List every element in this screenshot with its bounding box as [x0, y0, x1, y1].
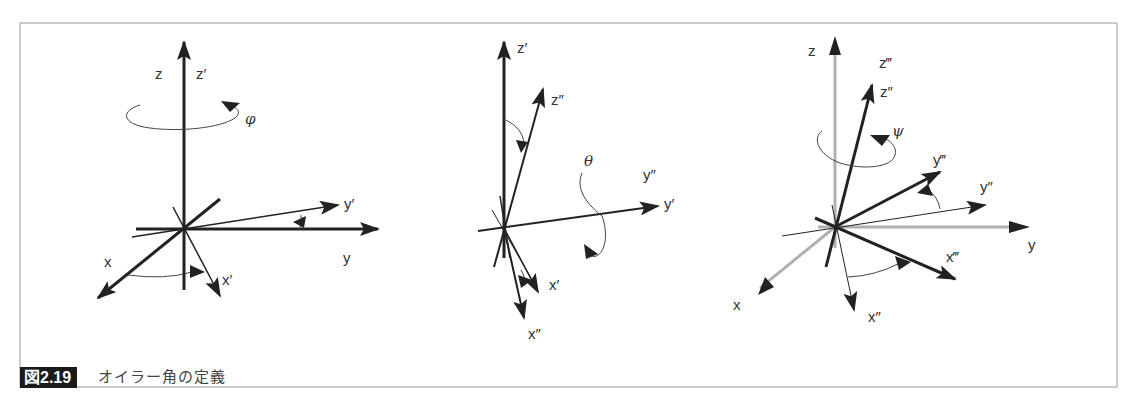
y-angle-arrowhead-icon — [917, 184, 933, 196]
y-tprime-axis — [835, 172, 940, 227]
label-z-dprime: z″ — [551, 91, 565, 108]
x-axis — [760, 227, 835, 288]
diagram-theta: z′ z″ θ y″ y′ x′ x″ — [478, 39, 675, 342]
theta-arrowhead-icon — [584, 244, 598, 259]
label-y-dprime: y″ — [980, 178, 994, 195]
label-x-dprime: x″ — [868, 308, 882, 325]
label-y-tprime: y‴ — [933, 151, 947, 168]
label-z-prime: z′ — [196, 65, 207, 82]
label-x: x — [104, 253, 112, 270]
label-theta: θ — [584, 152, 593, 170]
x-axis — [98, 199, 220, 298]
label-phi: φ — [245, 110, 256, 128]
label-x: x — [733, 296, 741, 313]
psi-arrowhead-icon — [870, 135, 890, 146]
x-dprime-axis — [504, 228, 524, 318]
diagram-psi: z z‴ z″ ψ y‴ y″ y x‴ x x″ — [733, 36, 1036, 325]
y-dprime-axis — [782, 205, 985, 236]
label-y-prime: y′ — [344, 195, 355, 212]
label-psi: ψ — [892, 122, 904, 140]
figure-number-badge: 図2.19 — [20, 367, 77, 388]
label-z: z — [808, 42, 816, 59]
label-y-dprime: y″ — [643, 166, 657, 183]
y-prime-axis — [132, 205, 338, 237]
x-dprime-axis — [832, 205, 854, 310]
label-x-dprime: x″ — [528, 325, 542, 342]
y-angle-arrowhead-icon — [293, 216, 306, 228]
label-x-prime: x′ — [222, 271, 233, 288]
label-z: z — [155, 65, 163, 82]
label-x-tprime: x‴ — [946, 248, 960, 265]
z-dprime-axis — [494, 89, 543, 267]
label-y: y — [343, 249, 351, 266]
label-y: y — [1028, 236, 1036, 253]
x-angle-arrowhead-icon — [190, 265, 205, 278]
label-z-dprime: z″ — [880, 83, 894, 100]
label-x-prime: x′ — [549, 276, 560, 293]
diagram-phi: z z′ φ y′ y x x′ — [98, 42, 378, 298]
euler-angles-figure: z z′ φ y′ y x x′ z′ z″ θ y″ y′ — [0, 0, 1121, 406]
label-z-tprime: z‴ — [879, 54, 893, 71]
label-y-prime: y′ — [664, 195, 675, 212]
figure-caption: オイラー角の定義 — [98, 367, 226, 388]
phi-arrowhead-icon — [221, 101, 240, 112]
label-z-prime: z′ — [517, 39, 528, 56]
x-prime-axis — [173, 207, 220, 296]
